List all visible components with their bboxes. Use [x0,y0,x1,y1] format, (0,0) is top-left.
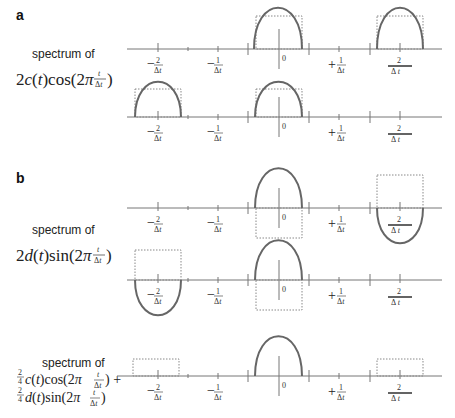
svg-text:c(t)cos(2π: c(t)cos(2π [25,372,83,388]
svg-text:Δt: Δt [90,399,98,408]
svg-text:t: t [98,69,101,78]
caption-sum: spectrum of [42,356,105,370]
svg-text:2: 2 [18,368,22,377]
panel-label-b: b [16,170,25,186]
spectrum-row-b2 [127,240,442,315]
spectrum-row-b1 [127,168,442,243]
svg-text:): ) [107,70,113,89]
caption-b: spectrum of [32,223,95,237]
svg-text:Δt: Δt [95,80,103,89]
svg-text:2: 2 [18,386,22,395]
spectrum-diagram: a b spectrum of 2c(t)cos(2π t Δt ) spect… [0,0,455,418]
svg-text:t: t [97,370,100,379]
svg-text:4: 4 [18,377,22,386]
expression-sum: 2 4 c(t)cos(2π t Δt ) + 2 4 d(t)sin(2π t… [17,368,121,408]
svg-text:4: 4 [18,395,22,404]
svg-text:): ) [101,390,106,406]
spectrum-row-a2 [127,82,442,144]
spectrum-row-sum [117,336,442,403]
svg-text:Δt: Δt [94,256,102,265]
expression-a: 2c(t)cos(2π t Δt ) [16,69,113,89]
svg-text:) +: ) + [105,372,121,388]
svg-text:2d(t)sin(2π: 2d(t)sin(2π [16,246,92,265]
svg-text:t: t [97,245,100,254]
caption-a: spectrum of [32,47,95,61]
svg-text:): ) [106,246,112,265]
spectrum-row-a1 [127,8,442,76]
expression-b: 2d(t)sin(2π t Δt ) [16,245,112,265]
panel-label-a: a [16,7,24,23]
svg-text:2c(t)cos(2π: 2c(t)cos(2π [16,70,94,89]
svg-text:d(t)sin(2π: d(t)sin(2π [25,390,81,406]
